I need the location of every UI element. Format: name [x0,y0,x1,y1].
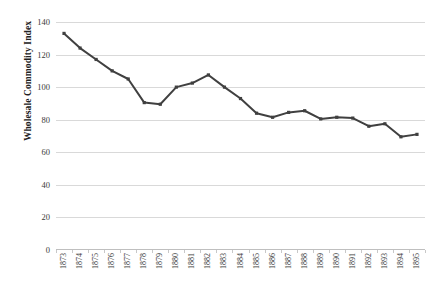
data-point-marker [62,32,65,35]
x-tick-mark [425,250,426,253]
y-tick-label: 0 [10,245,50,255]
data-point-marker [303,109,306,112]
x-tick-label: 1891 [349,253,357,269]
x-tick-mark [168,250,169,253]
x-tick-label: 1889 [317,253,325,269]
data-point-marker [255,112,258,115]
x-tick-label: 1875 [92,253,100,269]
data-point-marker [143,101,146,104]
x-axis-tick-labels: 1873187418751876187718781879188018811882… [56,250,425,295]
data-point-marker [207,73,210,76]
x-tick-mark [216,250,217,253]
data-point-marker [271,116,274,119]
x-tick-mark [409,250,410,253]
y-tick-label: 80 [10,115,50,125]
x-tick-label: 1880 [172,253,180,269]
data-point-marker [78,46,81,49]
y-tick-label: 60 [10,147,50,157]
y-tick-label: 120 [10,50,50,60]
data-point-marker [111,69,114,72]
data-point-marker [127,77,130,80]
x-tick-mark [88,250,89,253]
x-tick-label: 1894 [397,253,405,269]
x-tick-label: 1890 [333,253,341,269]
x-tick-mark [72,250,73,253]
data-point-marker [415,133,418,136]
x-tick-label: 1881 [188,253,196,269]
data-point-marker [287,111,290,114]
plot-area [56,22,425,250]
x-tick-label: 1885 [253,253,261,269]
x-tick-label: 1887 [285,253,293,269]
y-tick-label: 40 [10,180,50,190]
x-tick-mark [329,250,330,253]
x-tick-label: 1882 [204,253,212,269]
data-point-marker [239,97,242,100]
x-tick-mark [232,250,233,253]
x-tick-mark [297,250,298,253]
x-tick-mark [152,250,153,253]
x-tick-mark [361,250,362,253]
x-tick-mark [184,250,185,253]
line-series [56,22,425,250]
data-point-marker [95,58,98,61]
data-point-marker [175,86,178,89]
x-tick-mark [136,250,137,253]
data-point-marker [399,135,402,138]
x-tick-label: 1886 [269,253,277,269]
x-tick-mark [393,250,394,253]
x-tick-label: 1879 [156,253,164,269]
data-point-marker [351,116,354,119]
data-point-marker [383,122,386,125]
data-point-marker [335,116,338,119]
x-tick-label: 1883 [220,253,228,269]
x-tick-mark [249,250,250,253]
x-tick-label: 1884 [237,253,245,269]
x-tick-mark [345,250,346,253]
x-tick-label: 1893 [381,253,389,269]
data-point-marker [159,103,162,106]
chart-container: Wholesale Commodity Index 02040608010012… [0,0,446,295]
x-tick-mark [281,250,282,253]
x-tick-mark [377,250,378,253]
data-point-marker [191,81,194,84]
x-tick-label: 1888 [301,253,309,269]
x-tick-mark [313,250,314,253]
y-tick-label: 140 [10,17,50,27]
x-tick-label: 1892 [365,253,373,269]
x-tick-label: 1895 [413,253,421,269]
x-tick-label: 1874 [76,253,84,269]
x-tick-label: 1877 [124,253,132,269]
data-point-marker [319,117,322,120]
y-tick-label: 20 [10,212,50,222]
y-tick-label: 100 [10,82,50,92]
x-tick-label: 1876 [108,253,116,269]
x-tick-mark [120,250,121,253]
series-line [64,33,417,136]
x-tick-mark [104,250,105,253]
x-tick-mark [56,250,57,253]
x-tick-label: 1873 [60,253,68,269]
x-tick-label: 1878 [140,253,148,269]
x-tick-mark [200,250,201,253]
data-point-marker [367,125,370,128]
x-tick-mark [265,250,266,253]
data-point-marker [223,86,226,89]
